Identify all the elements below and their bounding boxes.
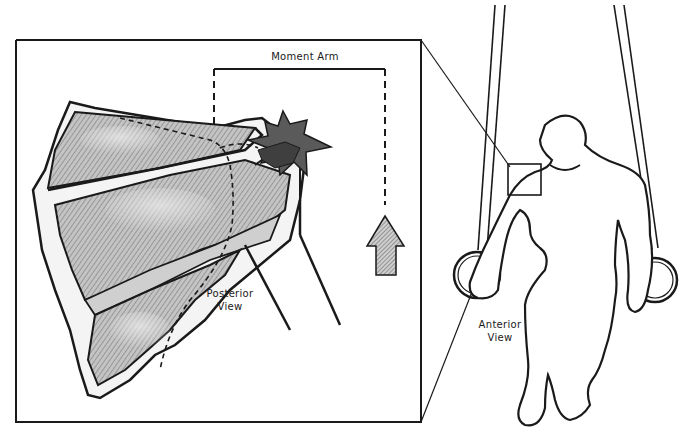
moment-arm-label: Moment Arm xyxy=(250,50,360,63)
posterior-view-line1: Posterior xyxy=(200,287,260,300)
force-arrow-up-icon xyxy=(367,216,404,275)
posterior-view-label: Posterior View xyxy=(200,287,260,313)
illustration-canvas xyxy=(0,0,683,442)
anterior-view-line1: Anterior xyxy=(470,318,530,331)
anterior-view-label: Anterior View xyxy=(470,318,530,344)
posterior-view-line2: View xyxy=(200,300,260,313)
gymnast-figure xyxy=(470,116,652,426)
anterior-view-line2: View xyxy=(470,331,530,344)
